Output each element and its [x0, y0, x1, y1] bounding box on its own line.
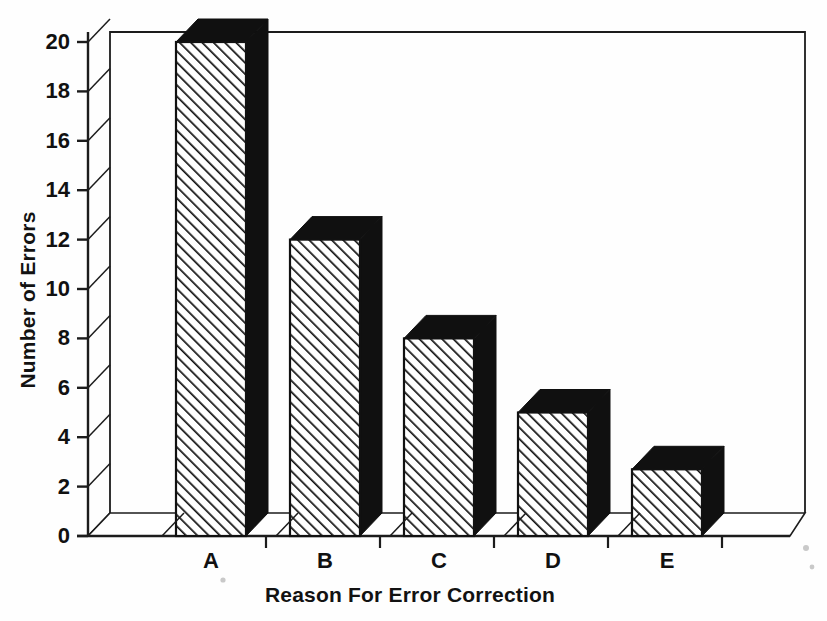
scan-speck-3	[220, 577, 225, 582]
y-axis-title: Number of Errors	[16, 180, 40, 420]
bar-front-face-A[interactable]	[176, 42, 246, 536]
x-tick-label-D: D	[523, 548, 583, 574]
bar-side-face-D	[588, 390, 610, 537]
bar-front-face-E[interactable]	[632, 469, 702, 536]
y-tick-label-20: 20	[26, 29, 70, 55]
y-tick-label-16: 16	[26, 128, 70, 154]
chart-plot-area	[0, 0, 827, 621]
y-tick-label-4: 4	[26, 424, 70, 450]
x-tick-label-E: E	[637, 548, 697, 574]
bar-front-face-D[interactable]	[518, 413, 588, 537]
y-tick-label-0: 0	[26, 523, 70, 549]
y-tick-label-18: 18	[26, 78, 70, 104]
y-depth-line-8	[88, 315, 110, 338]
scan-speck-2	[810, 565, 815, 570]
y-depth-line-12	[88, 217, 110, 240]
x-axis-title: Reason For Error Correction	[200, 583, 620, 607]
y-depth-line-16	[88, 118, 110, 141]
y-depth-line-4	[88, 414, 110, 437]
y-depth-line-14	[88, 167, 110, 190]
y-depth-line-6	[88, 365, 110, 388]
x-tick-label-B: B	[295, 548, 355, 574]
bar-side-face-A	[246, 19, 268, 536]
y-depth-line-18	[88, 68, 110, 91]
y-depth-line-2	[88, 464, 110, 487]
bar-front-face-C[interactable]	[404, 338, 474, 536]
x-tick-label-C: C	[409, 548, 469, 574]
y-tick-label-2: 2	[26, 474, 70, 500]
bar-front-face-B[interactable]	[290, 240, 360, 536]
x-tick-label-A: A	[181, 548, 241, 574]
y-depth-line-10	[88, 266, 110, 289]
bar-side-face-B	[360, 217, 382, 536]
scan-speck-1	[803, 545, 809, 551]
y-depth-line-20	[88, 19, 110, 42]
bar-chart-figure: 20181614121086420 ABCDE Number of Errors…	[0, 0, 827, 621]
bar-side-face-C	[474, 315, 496, 536]
